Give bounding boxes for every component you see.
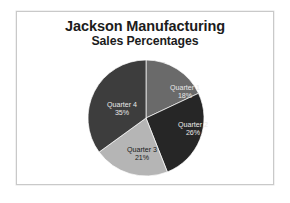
pie-chart: Quarter 1 18% Quarter 2 26% Quarter 3 21… bbox=[86, 58, 206, 178]
chart-title-block: Jackson Manufacturing Sales Percentages bbox=[17, 18, 273, 49]
pie-chart-svg bbox=[86, 58, 206, 178]
page-title: Jackson Manufacturing bbox=[17, 18, 273, 34]
slide-frame: Jackson Manufacturing Sales Percentages … bbox=[16, 11, 274, 185]
page-subtitle: Sales Percentages bbox=[17, 35, 273, 49]
